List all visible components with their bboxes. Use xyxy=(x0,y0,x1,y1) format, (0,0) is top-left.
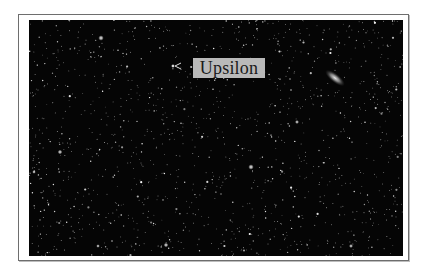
photo-frame: Upsilon xyxy=(18,14,409,261)
star-label: Upsilon xyxy=(193,58,265,78)
starfield-icon xyxy=(29,20,403,256)
marker-icon xyxy=(172,63,181,69)
starfield-photo: Upsilon xyxy=(29,20,403,256)
